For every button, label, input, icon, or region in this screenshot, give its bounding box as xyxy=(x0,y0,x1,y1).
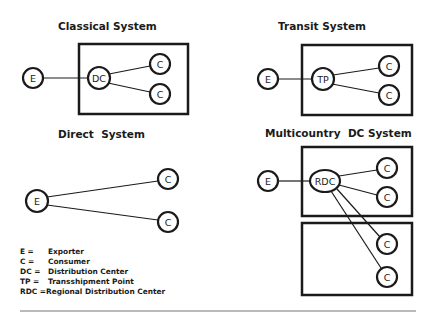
legend-abbr-e: E = xyxy=(20,247,34,256)
transit-exporter-label: E xyxy=(265,74,271,85)
transit-link-tp-c2 xyxy=(332,84,379,93)
classical-consumer-label-1: C xyxy=(157,59,164,70)
legend-meaning-tp: Transshipment Point xyxy=(48,277,134,286)
multicountry-rdc-label: RDC xyxy=(315,176,336,187)
transit-consumer-label-1: C xyxy=(386,61,393,72)
legend-abbr-tp: TP = xyxy=(20,277,39,286)
legend: E = Exporter C = Consumer DC = Distribut… xyxy=(20,247,166,296)
classical-exporter-label: E xyxy=(30,73,36,84)
direct-system-title: Direct System xyxy=(58,128,145,140)
classical-system-title: Classical System xyxy=(58,20,157,32)
multicountry-exporter-label: E xyxy=(265,176,271,187)
classical-consumer-label-2: C xyxy=(157,89,164,100)
multicountry-consumer-label-4: C xyxy=(384,272,391,283)
transit-link-tp-c1 xyxy=(333,68,379,75)
multicountry-country-box-2 xyxy=(302,223,412,295)
classical-dc-label: DC xyxy=(92,73,106,84)
direct-exporter-label: E xyxy=(34,196,40,207)
legend-abbr-rdc: RDC = xyxy=(20,287,46,296)
direct-consumer-label-1: C xyxy=(165,174,172,185)
classical-link-dc-c1 xyxy=(109,66,150,74)
transit-system-title: Transit System xyxy=(278,20,366,32)
legend-meaning-rdc: Regional Distribution Center xyxy=(46,287,166,296)
multicountry-link-rdc-c1 xyxy=(339,170,377,176)
legend-abbr-dc: DC = xyxy=(20,267,40,276)
multicountry-link-rdc-c2 xyxy=(339,185,377,195)
multicountry-link-rdc-c3 xyxy=(337,189,380,237)
direct-system: Direct System E C C xyxy=(26,128,178,232)
direct-link-e-c2 xyxy=(47,205,158,220)
multicountry-consumer-label-2: C xyxy=(384,192,391,203)
legend-meaning-dc: Distribution Center xyxy=(48,267,129,276)
legend-abbr-c: C = xyxy=(20,257,34,266)
direct-consumer-label-2: C xyxy=(165,217,172,228)
transit-consumer-label-2: C xyxy=(386,90,393,101)
multicountry-consumer-label-3: C xyxy=(384,239,391,250)
classical-system: Classical System E DC C C xyxy=(23,20,188,114)
legend-meaning-e: Exporter xyxy=(48,247,84,256)
multicountry-consumer-label-1: C xyxy=(384,163,391,174)
transit-tp-label: TP xyxy=(316,74,329,85)
multicountry-system-title: Multicountry DC System xyxy=(265,127,412,139)
distribution-systems-diagram: Classical System E DC C C Transit System xyxy=(0,0,433,318)
transit-system: Transit System E TP C C xyxy=(258,20,412,115)
legend-meaning-c: Consumer xyxy=(48,257,90,266)
direct-link-e-c1 xyxy=(47,181,158,197)
multicountry-system: Multicountry DC System E RDC C C C C xyxy=(258,127,412,295)
classical-link-dc-c2 xyxy=(108,83,150,92)
